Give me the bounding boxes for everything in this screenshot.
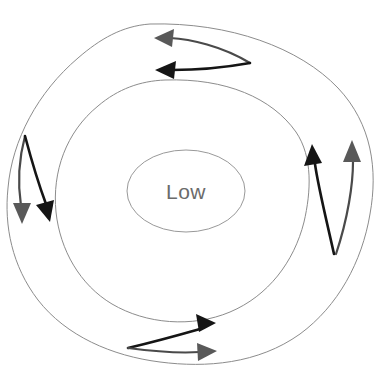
arrow-right-black-shaft [315,164,334,254]
arrow-left-black-shaft [25,136,46,204]
arrow-left-gray-head [13,203,31,224]
arrow-top-black-head [155,61,176,79]
arrow-bottom-gray-head [197,343,217,361]
arrow-top-gray-head [154,29,174,47]
diagram-canvas: Low [0,0,385,375]
arrow-left-black [25,136,54,222]
arrow-left-black-head [36,200,54,222]
arrow-top-gray [154,29,250,63]
arrow-bottom-black-head [196,314,216,332]
arrow-top-gray-shaft [170,38,250,63]
arrow-pair-right [304,140,361,254]
low-pressure-label: Low [166,180,206,203]
arrow-right-gray-head [343,140,361,162]
arrow-left-gray-shaft [19,136,25,206]
arrow-pair-top [154,29,250,79]
arrow-right-gray-shaft [336,162,353,254]
arrow-bottom-black [128,314,216,348]
arrow-pair-bottom [128,314,217,361]
arrow-right-gray [336,140,361,254]
arrow-top-black-shaft [172,63,250,70]
arrow-top-black [155,61,250,79]
arrow-bottom-gray-shaft [128,348,200,352]
pressure-system-diagram: Low [0,0,385,375]
arrow-pair-left [13,136,54,224]
arrow-bottom-black-shaft [128,329,200,348]
